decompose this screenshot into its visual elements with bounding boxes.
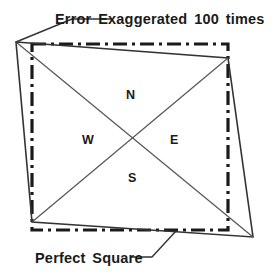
diagonal-ne-sw	[32, 58, 228, 222]
perfect-square-outline	[32, 44, 228, 230]
perfect-square-caption: Perfect Square	[35, 251, 143, 266]
quadrant-label-east: E	[170, 134, 178, 147]
quadrant-label-south: S	[128, 172, 136, 185]
error-exaggerated-caption: Error Exaggerated 100 times	[55, 12, 265, 27]
quadrant-label-north: N	[126, 89, 135, 102]
figure-container: Error Exaggerated 100 times Perfect Squa…	[0, 0, 277, 278]
diagonal-nw-se	[16, 42, 253, 237]
quadrant-label-west: W	[82, 134, 94, 147]
survey-error-diagram	[0, 0, 277, 278]
